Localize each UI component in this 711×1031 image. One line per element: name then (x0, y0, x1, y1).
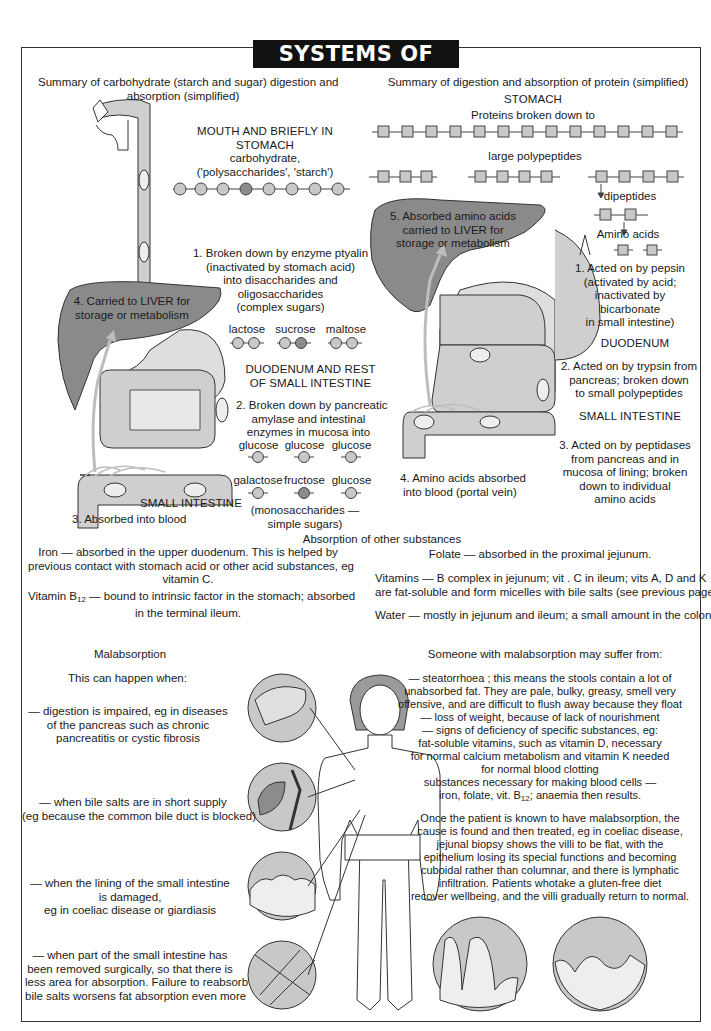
cause-damaged-lining: — when the lining of the small intestine… (30, 877, 230, 918)
carb-step-2: 2. Broken down by pancreatic amylase and… (236, 399, 381, 440)
mouth-stomach-label: MOUTH AND BRIEFLY IN STOMACH (195, 125, 335, 152)
protein-small-intestine-label: SMALL INTESTINE (570, 410, 690, 424)
dipeptides-label: dipeptides (590, 190, 670, 204)
monosaccharide-label: glucose (282, 439, 327, 453)
protein-step-1: 1. Acted on by pepsin (activated by acid… (572, 262, 688, 330)
protein-step-2: 2. Acted on by trypsin from pancreas; br… (556, 360, 702, 401)
malabsorption-intro: This can happen when: (50, 672, 205, 686)
protein-liver-label: 5. Absorbed amino acids carried to LIVER… (378, 210, 528, 251)
cause-bile-salts: — when bile salts are in short supply (e… (22, 796, 244, 823)
protein-duodenum-label: DUODENUM (585, 337, 685, 351)
carb-step-1: 1. Broken down by enzyme ptyalin (inacti… (188, 247, 373, 315)
amino-acids-label: Amino acids (588, 228, 668, 242)
symptoms-list: — steatorrhoea ; this means the stools c… (384, 672, 696, 805)
polysaccharide-chain (173, 183, 350, 195)
water-text: Water — mostly in jejunum and ileum; a s… (375, 609, 700, 623)
monosaccharide-label: glucose (329, 439, 374, 453)
carb-small-intestine-label: SMALL INTESTINE (140, 497, 235, 511)
lactose-label: lactose (226, 323, 268, 337)
carb-liver-label: 4. Carried to LIVER for storage or metab… (62, 295, 202, 322)
monosaccharide-label: glucose (329, 474, 374, 488)
proteins-broken-down-label: Proteins broken down to (448, 109, 618, 123)
cause-surgical-removal: — when part of the small intestine has b… (25, 949, 235, 1003)
monosaccharide-label: galactose (232, 474, 284, 488)
folate-text: Folate — absorbed in the proximal jejunu… (385, 548, 695, 562)
protein-step-3: 3. Acted on by peptidases from pancreas … (550, 439, 700, 507)
large-polypeptides (369, 171, 684, 182)
suffer-heading: Someone with malabsorption may suffer fr… (410, 648, 680, 662)
protein-step-4: 4. Amino acids absorbed into blood (port… (400, 472, 526, 499)
treatment-text: Once the patient is known to have malabs… (400, 812, 700, 903)
maltose-label: maltose (324, 323, 368, 337)
protein-heading: Summary of digestion and absorption of p… (378, 76, 698, 90)
disaccharide-beads (230, 338, 362, 349)
sucrose-label: sucrose (273, 323, 318, 337)
vitamin-b12-text: Vitamin B12 — bound to intrinsic factor … (28, 590, 348, 620)
carb-step-3: 3. Absorbed into blood (72, 513, 186, 527)
monosaccharide-note: (monosaccharides — simple sugars) (240, 504, 370, 531)
other-substances-heading: Absorption of other substances (282, 533, 482, 547)
protein-stomach-label: STOMACH (478, 93, 588, 107)
villi-comparison (433, 917, 647, 1011)
protein-chain (372, 126, 683, 137)
large-polypeptides-label: large polypeptides (460, 150, 610, 164)
cause-pancreas: — digestion is impaired, eg in diseases … (28, 705, 228, 746)
monosaccharide-label: fructose (282, 474, 327, 488)
carb-heading: Summary of carbohydrate (starch and suga… (38, 76, 328, 103)
carb-duodenum-label: DUODENUM AND REST OF SMALL INTESTINE (238, 363, 383, 390)
monosaccharide-label: glucose (236, 439, 281, 453)
malabsorption-heading: Malabsorption (60, 648, 200, 662)
iron-text: Iron — absorbed in the upper duodenum. T… (28, 546, 348, 587)
carbohydrate-label: carbohydrate, ('polysaccharides', 'starc… (195, 152, 335, 179)
vitamins-text: Vitamins — B complex in jejunum; vit . C… (375, 572, 700, 599)
